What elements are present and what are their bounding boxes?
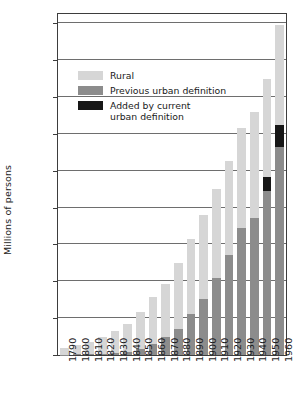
bar-1900 bbox=[199, 215, 208, 355]
x-tick-label-1820: 1820 bbox=[106, 338, 116, 362]
segment-previous-urban-1930 bbox=[237, 228, 246, 355]
x-tick-label-1910: 1910 bbox=[220, 338, 230, 362]
bar-1960 bbox=[275, 25, 284, 355]
bar-1940 bbox=[250, 112, 259, 355]
chart-legend: Rural Previous urban definition Added by… bbox=[78, 70, 226, 126]
x-tick-label-1830: 1830 bbox=[119, 338, 129, 362]
x-axis-tick-labels: 1790180018101820183018401850186018701880… bbox=[58, 360, 286, 415]
legend-item-rural: Rural bbox=[78, 70, 226, 81]
segment-previous-urban-1940 bbox=[250, 218, 259, 355]
bar-1920 bbox=[225, 161, 234, 355]
x-tick-label-1860: 1860 bbox=[157, 338, 167, 362]
y-axis-title: Millions of persons bbox=[2, 30, 13, 150]
segment-rural-1870 bbox=[161, 284, 170, 337]
x-tick-label-1950: 1950 bbox=[271, 338, 281, 362]
x-tick-label-1790: 1790 bbox=[68, 338, 78, 362]
legend-item-previous-urban: Previous urban definition bbox=[78, 85, 226, 96]
legend-item-added-current: Added by current urban definition bbox=[78, 100, 226, 122]
legend-label-previous-urban: Previous urban definition bbox=[110, 85, 226, 96]
x-tick-label-1870: 1870 bbox=[170, 338, 180, 362]
rural-swatch-icon bbox=[78, 71, 103, 80]
segment-previous-urban-1950 bbox=[263, 191, 272, 355]
bar-series-layer bbox=[58, 14, 286, 355]
segment-rural-1940 bbox=[250, 112, 259, 218]
legend-label-rural: Rural bbox=[110, 70, 134, 81]
segment-added-current-1960 bbox=[275, 125, 284, 147]
segment-rural-1880 bbox=[174, 263, 183, 329]
added-current-swatch-icon bbox=[78, 101, 103, 110]
segment-rural-1910 bbox=[212, 189, 221, 277]
segment-previous-urban-1960 bbox=[275, 147, 284, 355]
x-tick-label-1900: 1900 bbox=[208, 338, 218, 362]
bar-1950 bbox=[263, 79, 272, 355]
x-tick-label-1940: 1940 bbox=[258, 338, 268, 362]
x-tick-label-1840: 1840 bbox=[132, 338, 142, 362]
legend-label-added-current: Added by current urban definition bbox=[110, 100, 190, 122]
bar-1930 bbox=[237, 128, 246, 355]
previous-urban-swatch-icon bbox=[78, 86, 103, 95]
segment-rural-1900 bbox=[199, 215, 208, 299]
segment-rural-1950 bbox=[263, 79, 272, 177]
x-tick-label-1890: 1890 bbox=[195, 338, 205, 362]
x-tick-label-1810: 1810 bbox=[94, 338, 104, 362]
segment-rural-1960 bbox=[275, 25, 284, 125]
segment-rural-1890 bbox=[187, 239, 196, 314]
segment-rural-1930 bbox=[237, 128, 246, 228]
segment-added-current-1950 bbox=[263, 177, 272, 191]
x-tick-label-1960: 1960 bbox=[284, 338, 294, 362]
x-tick-label-1920: 1920 bbox=[233, 338, 243, 362]
x-tick-label-1850: 1850 bbox=[144, 338, 154, 362]
population-stacked-bar-chart: Millions of persons 02040608010012014016… bbox=[0, 0, 303, 415]
y-axis-title-text: Millions of persons bbox=[2, 150, 13, 270]
segment-rural-1860 bbox=[149, 297, 158, 343]
x-tick-label-1930: 1930 bbox=[246, 338, 256, 362]
bar-1910 bbox=[212, 189, 221, 355]
x-tick-label-1800: 1800 bbox=[81, 338, 91, 362]
x-tick-label-1880: 1880 bbox=[182, 338, 192, 362]
segment-rural-1920 bbox=[225, 161, 234, 255]
